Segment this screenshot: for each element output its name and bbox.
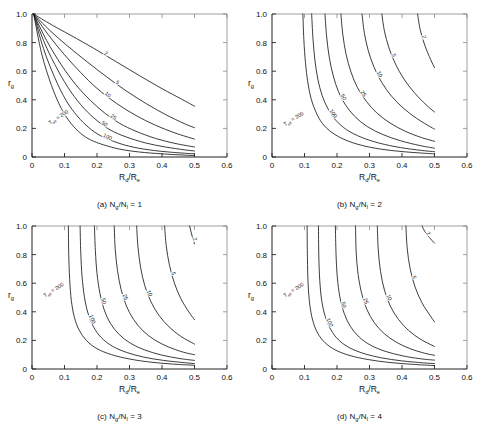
curve-teff-2 [190, 226, 195, 244]
y-tick-label: 0.2 [256, 336, 268, 345]
panel-a-caption-prefix: (a) [97, 200, 107, 209]
curve-teff-200 [68, 226, 194, 365]
curve-teff-25 [356, 226, 435, 355]
y-tick-label: 0 [263, 365, 268, 374]
x-axis-ticks: 00.10.20.30.40.50.6 [30, 226, 233, 382]
y-tick-label: 0.6 [16, 67, 28, 76]
y-tick-label: 0 [263, 153, 268, 162]
curve-teff-5 [382, 14, 435, 112]
x-tick-label: 0.1 [59, 161, 71, 170]
teff-label-group: Teff = 200Teff = 200 [282, 110, 305, 128]
curves [307, 226, 435, 366]
curve-label-5: 5 [115, 79, 121, 86]
y-tick-label: 0.4 [256, 308, 268, 317]
panel-d-caption: (d) Ng/Nl = 4 [240, 412, 479, 422]
x-tick-label: 0.6 [461, 373, 473, 382]
y-axis-ticks: 00.20.40.60.81.0 [256, 222, 467, 374]
x-tick-label: 0.3 [124, 373, 136, 382]
y-axis-ticks: 00.20.40.60.81.0 [256, 10, 467, 162]
curve-label-5: 5 [391, 53, 398, 58]
y-tick-label: 0.4 [16, 96, 28, 105]
curve-label-2: 2 [425, 230, 432, 236]
curve-label-25: 25 [122, 293, 130, 301]
y-tick-label: 0 [23, 153, 28, 162]
panel-d-caption-prefix: (d) [337, 412, 347, 421]
panel-c-caption: (c) Ng/Nl = 3 [0, 412, 239, 422]
y-tick-label: 0.2 [16, 336, 28, 345]
x-tick-label: 0.5 [429, 161, 441, 170]
x-tick-label: 0.1 [59, 373, 71, 382]
panel-b: 00.10.20.30.40.50.600.20.40.60.81.010010… [240, 0, 479, 211]
x-tick-label: 0.1 [299, 373, 311, 382]
y-tick-label: 0.2 [16, 124, 28, 133]
x-tick-label: 0.4 [396, 161, 408, 170]
curve-teff-100 [80, 226, 194, 364]
panel-d-plot: 00.10.20.30.40.50.600.20.40.60.81.010010… [240, 212, 479, 423]
x-tick-label: 0 [270, 373, 275, 382]
x-tick-label: 0 [30, 373, 35, 382]
panel-b-caption-prefix: (b) [337, 200, 347, 209]
curves [34, 14, 195, 156]
panel-a-caption-slash: /N [119, 200, 127, 209]
y-tick-label: 0.4 [16, 308, 28, 317]
y-tick-label: 1.0 [256, 10, 268, 19]
curve-teff-5 [165, 226, 195, 320]
curve-label-5: 5 [411, 275, 418, 279]
x-tick-label: 0.2 [91, 373, 103, 382]
y-axis-title: rg [248, 78, 254, 89]
curve-label-100: 100 [102, 132, 113, 141]
panel-c-caption-eq: = 3 [128, 412, 142, 421]
x-axis-title: Rd/Re [359, 172, 380, 183]
x-axis-title: Rd/Re [119, 384, 140, 395]
x-tick-label: 0.6 [221, 373, 233, 382]
x-tick-label: 0.5 [189, 161, 201, 170]
y-tick-label: 0.8 [256, 39, 268, 48]
axes-frame [272, 14, 467, 157]
x-tick-label: 0.4 [156, 373, 168, 382]
curve-teff-2 [418, 14, 435, 68]
teff-label-group: Teff = 200Teff = 200 [282, 281, 305, 299]
x-tick-label: 0.4 [156, 161, 168, 170]
curve-labels: 1001005050252510105522 [328, 35, 427, 119]
y-tick-label: 1.0 [16, 222, 28, 231]
teff-label: Teff = 200 [42, 281, 65, 299]
y-tick-label: 1.0 [256, 222, 268, 231]
panel-b-plot: 00.10.20.30.40.50.600.20.40.60.81.010010… [240, 0, 479, 211]
x-tick-label: 0.3 [364, 373, 376, 382]
panel-c-plot: 00.10.20.30.40.50.600.20.40.60.81.010010… [0, 212, 239, 423]
x-tick-label: 0 [270, 161, 275, 170]
x-tick-label: 0.5 [429, 373, 441, 382]
curves [68, 226, 194, 365]
curve-label-2: 2 [421, 35, 428, 40]
curve-label-100: 100 [88, 314, 97, 325]
y-tick-label: 0.8 [16, 39, 28, 48]
curve-label-5: 5 [171, 271, 178, 275]
x-tick-label: 0.4 [396, 373, 408, 382]
teff-label: Teff = 200 [282, 281, 305, 299]
curve-label-10: 10 [146, 289, 154, 297]
curve-teff-25 [114, 226, 194, 355]
x-tick-label: 0 [30, 161, 35, 170]
x-axis-title: Rd/Re [359, 384, 380, 395]
y-axis-ticks: 00.20.40.60.81.0 [16, 10, 227, 162]
curve-label-50: 50 [340, 301, 347, 308]
curve-teff-10 [377, 226, 434, 347]
curve-teff-200 [303, 14, 435, 154]
panel-d-caption-eq: = 4 [368, 412, 382, 421]
y-tick-label: 0.6 [256, 279, 268, 288]
curves [303, 14, 435, 154]
panel-a-caption-eq: = 1 [128, 200, 142, 209]
y-tick-label: 0.2 [256, 124, 268, 133]
x-tick-label: 0.1 [299, 161, 311, 170]
panel-c: 00.10.20.30.40.50.600.20.40.60.81.010010… [0, 212, 239, 423]
x-tick-label: 0.2 [331, 161, 343, 170]
x-axis-ticks: 00.10.20.30.40.50.6 [270, 226, 473, 382]
y-tick-label: 1.0 [16, 10, 28, 19]
panel-a-caption: (a) Ng/Nl = 1 [0, 200, 239, 210]
figure-root: 00.10.20.30.40.50.600.20.40.60.81.010010… [0, 0, 479, 423]
curve-label-10: 10 [104, 90, 112, 98]
curve-teff-50 [94, 226, 194, 360]
axes-frame [272, 226, 467, 369]
panel-c-caption-prefix: (c) [97, 412, 107, 421]
x-tick-label: 0.3 [124, 161, 136, 170]
